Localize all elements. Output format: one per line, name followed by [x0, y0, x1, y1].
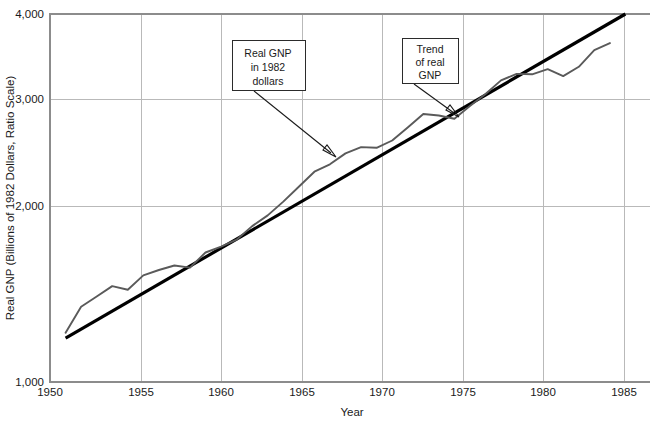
trend-line — [66, 14, 626, 338]
chart-canvas: 4,000 3,000 2,000 1,000 1950 1955 1960 1… — [0, 0, 659, 430]
x-tick-label-1950: 1950 — [37, 386, 63, 398]
y-axis-title: Real GNP (Billions of 1982 Dollars, Rati… — [4, 76, 16, 321]
x-tick-label-1965: 1965 — [289, 386, 315, 398]
gnp-chart-figure: 4,000 3,000 2,000 1,000 1950 1955 1960 1… — [0, 0, 659, 430]
x-axis-title: Year — [340, 406, 363, 418]
annotation-trend-line-2: of real — [415, 56, 444, 68]
annotation-real-gnp-arrowhead — [323, 145, 336, 157]
plot-frame — [50, 14, 650, 382]
x-tick-label-1980: 1980 — [530, 386, 556, 398]
annotation-real-gnp-arrow-line — [254, 91, 331, 153]
series-trend-of-real-gnp — [66, 14, 626, 338]
annotation-trend-line-1: Trend — [416, 43, 443, 55]
annotation-real-gnp-line-2: in 1982 — [251, 61, 286, 73]
y-tick-label-2000: 2,000 — [15, 200, 44, 212]
x-tick-label-1970: 1970 — [369, 386, 395, 398]
x-tick-label-1960: 1960 — [208, 386, 234, 398]
x-axis-tick-labels: 1950 1955 1960 1965 1970 1975 1980 1985 — [37, 386, 637, 398]
axis-border — [50, 14, 650, 382]
y-tick-label-3000: 3,000 — [15, 93, 44, 105]
x-tick-label-1955: 1955 — [128, 386, 154, 398]
annotation-real-gnp-line-1: Real GNP — [244, 47, 291, 59]
annotation-trend-line-3: GNP — [419, 69, 442, 81]
annotation-real-gnp-line-3: dollars — [253, 75, 284, 87]
y-axis-tick-labels: 4,000 3,000 2,000 1,000 — [15, 8, 44, 388]
grid-lines — [50, 14, 650, 382]
x-tick-label-1975: 1975 — [450, 386, 476, 398]
annotation-trend: Trend of real GNP — [402, 38, 459, 117]
x-tick-label-1985: 1985 — [611, 386, 637, 398]
y-tick-label-4000: 4,000 — [15, 8, 44, 20]
